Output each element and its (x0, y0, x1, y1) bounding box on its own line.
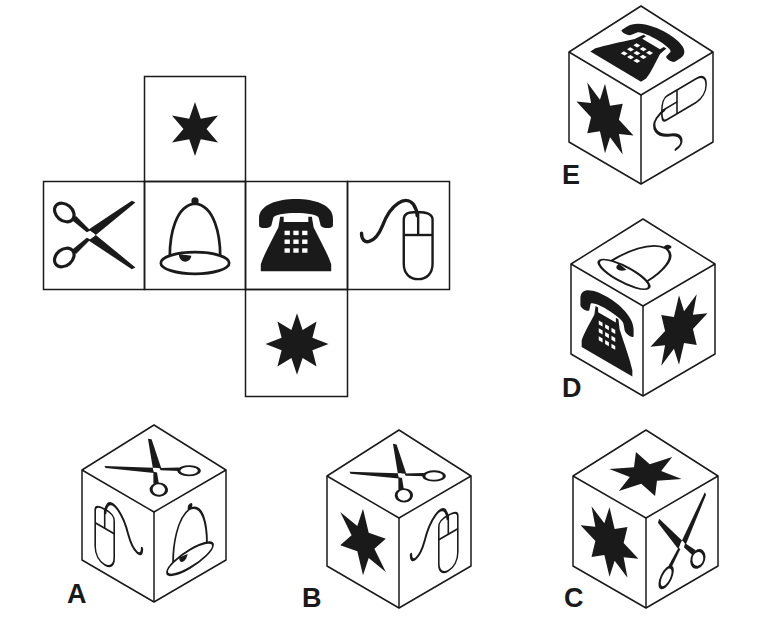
computer-mouse-icon (654, 73, 706, 163)
bell-icon (161, 197, 229, 273)
telephone-icon (259, 199, 333, 271)
star-6-point-icon (605, 446, 687, 502)
bell-icon (167, 490, 213, 581)
star-6-point-icon (172, 102, 218, 156)
option-label-d[interactable]: D (562, 375, 582, 402)
puzzle-canvas (0, 0, 761, 634)
option-cube-b[interactable] (327, 430, 471, 608)
cube-a-right-face (167, 490, 213, 581)
cube-b-left-face (340, 495, 386, 588)
option-label-a[interactable]: A (67, 581, 87, 608)
star-8-point-icon (581, 491, 639, 594)
computer-mouse-icon (362, 201, 433, 280)
option-label-c[interactable]: C (564, 585, 584, 612)
cube-e-left-face (576, 67, 633, 171)
cube-c-left-face (581, 491, 639, 594)
option-label-b[interactable]: B (302, 585, 322, 612)
option-cube-c[interactable] (573, 430, 718, 608)
star-6-point-icon (340, 495, 386, 588)
cube-e-right-face (654, 73, 706, 163)
star-8-point-icon (266, 313, 329, 375)
cube-d-right-face (650, 279, 707, 382)
star-8-point-icon (576, 67, 633, 171)
cube-net (44, 77, 450, 397)
star-8-point-icon (650, 279, 707, 382)
option-cube-a[interactable] (82, 425, 226, 602)
cube-c-top-face (578, 433, 714, 515)
option-cube-d[interactable] (571, 219, 715, 396)
option-label-e[interactable]: E (562, 162, 580, 189)
option-cube-e[interactable] (569, 6, 713, 184)
scissors-icon (51, 199, 136, 270)
